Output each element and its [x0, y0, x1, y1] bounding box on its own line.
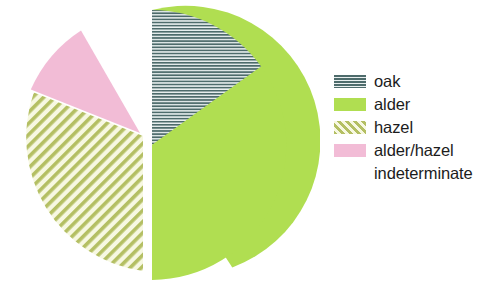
- legend-label-indeterminate: indeterminate: [374, 164, 473, 183]
- pie-chart-figure: oak alder hazel alder/hazel indeterminat…: [0, 0, 496, 286]
- legend-swatch-hazel: [334, 121, 366, 134]
- legend-swatch-oak: [334, 75, 366, 88]
- legend-label-alder: alder: [374, 95, 410, 114]
- legend-item-oak: oak: [334, 70, 496, 92]
- legend-item-indeterminate: indeterminate: [334, 162, 496, 184]
- legend-label-hazel: hazel: [374, 118, 413, 137]
- legend-swatch-placeholder: [334, 167, 366, 180]
- legend-label-alder-hazel: alder/hazel: [374, 141, 454, 160]
- legend-item-alder: alder: [334, 93, 496, 115]
- legend-swatch-alder-hazel: [334, 144, 366, 157]
- pie-chart-plot-area: [0, 0, 320, 286]
- legend-swatch-alder: [334, 98, 366, 111]
- pie-chart-svg: [0, 0, 320, 286]
- legend-item-hazel: hazel: [334, 116, 496, 138]
- legend-label-oak: oak: [374, 72, 400, 91]
- chart-legend: oak alder hazel alder/hazel indeterminat…: [334, 70, 496, 185]
- legend-item-alder-hazel: alder/hazel: [334, 139, 496, 161]
